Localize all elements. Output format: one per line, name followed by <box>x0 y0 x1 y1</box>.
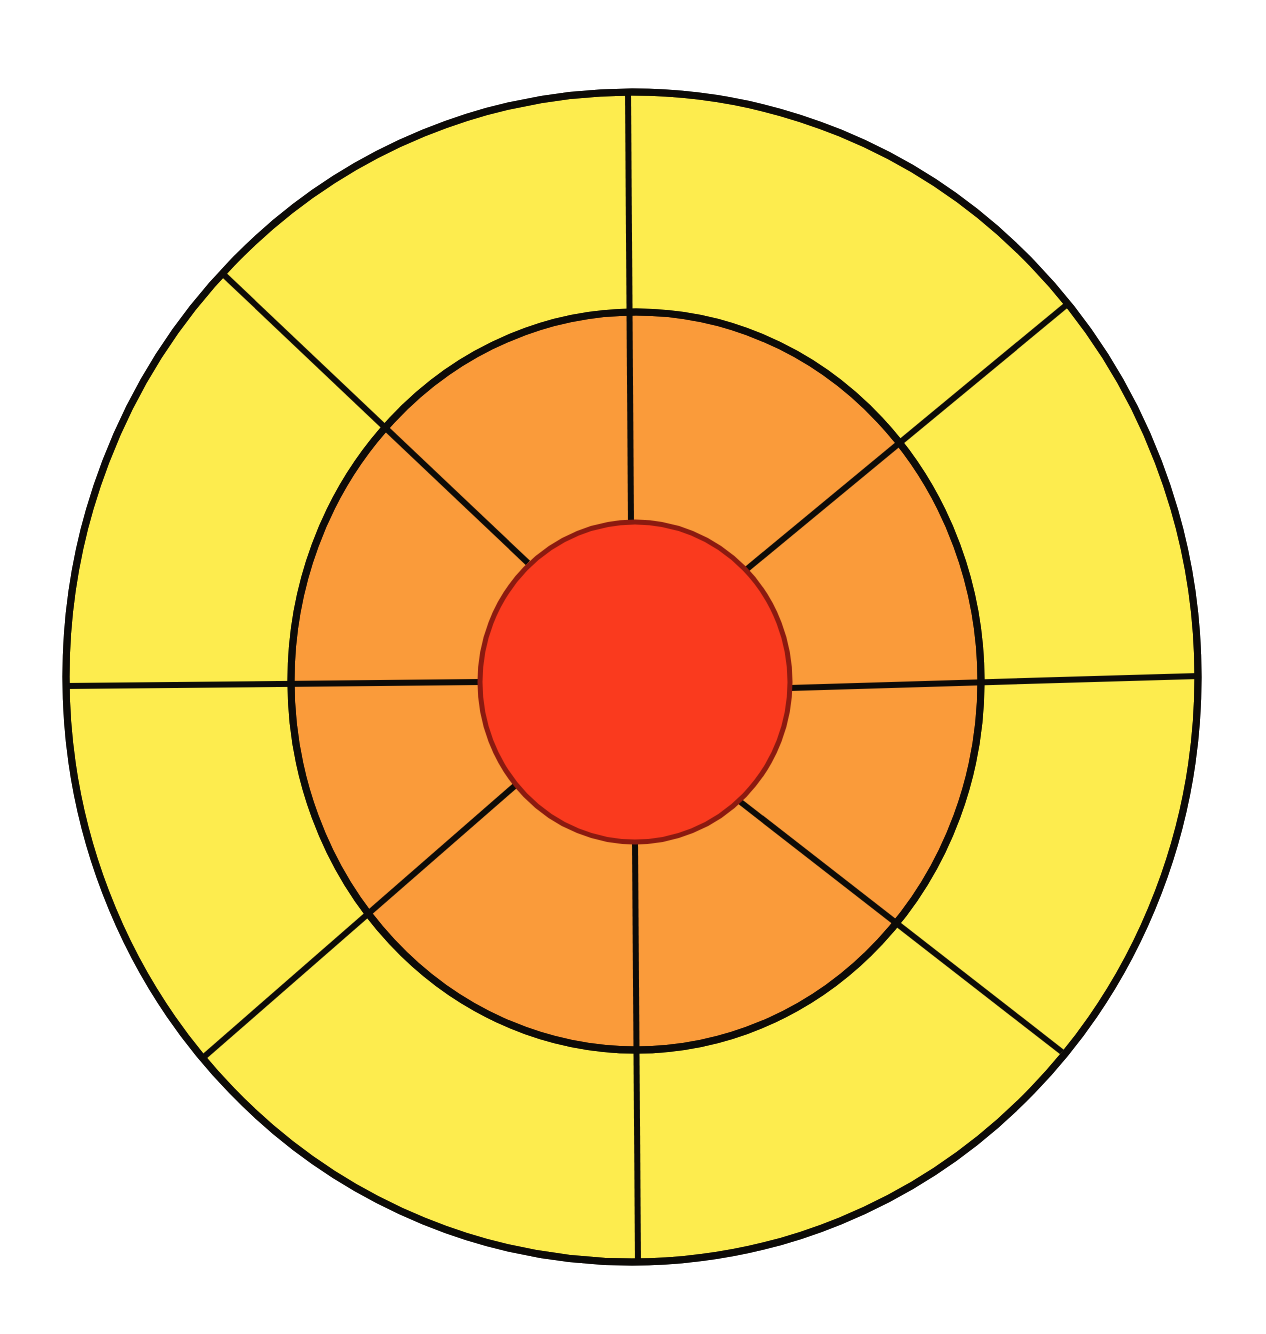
spoke-left <box>66 682 481 686</box>
target-diagram <box>0 0 1266 1334</box>
center-circle <box>480 522 790 842</box>
center-group <box>480 522 790 842</box>
spoke-top <box>628 92 631 524</box>
